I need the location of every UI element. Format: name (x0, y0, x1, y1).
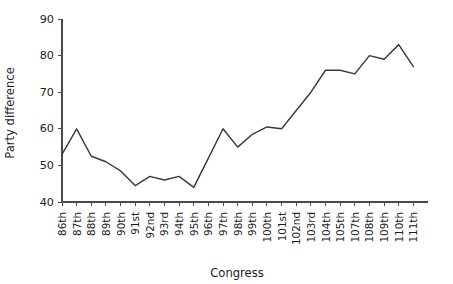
y-tick-label: 90 (40, 13, 54, 26)
x-tick-label: 95th (188, 212, 200, 236)
x-tick-label: 105th (334, 212, 346, 243)
x-tick-label: 88th (85, 212, 97, 236)
y-tick-label: 50 (40, 159, 54, 172)
chart-container: 405060708090 86th87th88th89th90th91st92n… (0, 0, 453, 284)
x-tick-label: 99th (246, 212, 258, 236)
y-axis-title: Party difference (3, 67, 17, 159)
x-tick-label: 89th (100, 212, 112, 236)
x-tick-label: 100th (261, 212, 273, 243)
party-difference-line (62, 45, 413, 188)
x-tick-label: 97th (217, 212, 229, 236)
x-tick-label: 98th (232, 212, 244, 236)
x-tick-label: 86th (56, 212, 68, 236)
x-axis-title: Congress (210, 266, 264, 280)
x-tick-label: 109th (378, 212, 390, 243)
x-tick-label: 96th (202, 212, 214, 236)
x-tick-label: 108th (363, 212, 375, 243)
x-tick-label: 110th (393, 212, 405, 243)
x-tick-label: 102nd (290, 212, 302, 245)
x-axis: 86th87th88th89th90th91st92nd93rd94th95th… (56, 202, 428, 245)
x-tick-label: 93rd (158, 212, 170, 236)
line-chart-svg: 405060708090 86th87th88th89th90th91st92n… (0, 0, 453, 284)
x-tick-label: 94th (173, 212, 185, 236)
y-tick-label: 70 (40, 86, 54, 99)
data-series-group (62, 45, 413, 188)
x-tick-label: 90th (115, 212, 127, 236)
x-tick-label: 111th (407, 212, 419, 243)
x-tick-label: 107th (349, 212, 361, 243)
y-axis: 405060708090 (40, 13, 62, 209)
x-tick-label: 104th (320, 212, 332, 243)
y-tick-label: 60 (40, 122, 54, 135)
y-tick-label: 80 (40, 49, 54, 62)
x-tick-label: 92nd (144, 212, 156, 238)
y-tick-label: 40 (40, 196, 54, 209)
x-tick-label: 91st (129, 212, 141, 235)
x-tick-label: 101st (276, 212, 288, 241)
x-tick-label: 87th (71, 212, 83, 236)
x-tick-label: 103rd (305, 212, 317, 243)
